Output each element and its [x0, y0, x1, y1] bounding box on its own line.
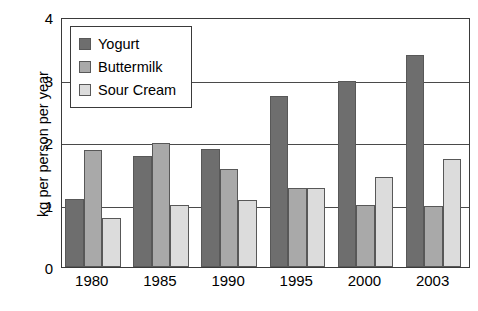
x-tick-label-1980: 1980: [57, 272, 127, 289]
bar-buttermilk-1990: [220, 169, 239, 267]
bar-buttermilk-2000: [356, 205, 375, 267]
x-tick-label-2000: 2000: [329, 272, 399, 289]
legend-item-sour-cream: Sour Cream: [79, 78, 183, 101]
legend-label: Sour Cream: [98, 82, 176, 98]
y-tick-label: 2: [15, 135, 61, 152]
bar-sour-cream-1985: [170, 205, 189, 267]
x-tick-label-1985: 1985: [125, 272, 195, 289]
bar-yogurt-1995: [270, 96, 289, 267]
legend-swatch-icon: [79, 38, 91, 50]
legend-label: Yogurt: [98, 36, 139, 52]
y-tick-label: 3: [15, 72, 61, 89]
bar-sour-cream-2000: [375, 177, 394, 267]
bar-chart: kg per person per year 01234 19801985199…: [0, 0, 478, 311]
y-tick-label: 1: [15, 197, 61, 214]
bar-sour-cream-1990: [238, 200, 257, 267]
bar-buttermilk-2003: [424, 206, 443, 267]
bar-buttermilk-1985: [152, 143, 171, 267]
legend-item-buttermilk: Buttermilk: [79, 55, 183, 78]
bar-yogurt-2000: [338, 81, 357, 267]
bar-yogurt-2003: [406, 55, 425, 267]
x-tick-label-1995: 1995: [261, 272, 331, 289]
x-tick-label-1990: 1990: [193, 272, 263, 289]
bar-sour-cream-1995: [307, 188, 326, 267]
bar-buttermilk-1995: [288, 188, 307, 267]
legend-item-yogurt: Yogurt: [79, 32, 183, 55]
legend-label: Buttermilk: [98, 59, 162, 75]
bar-sour-cream-2003: [443, 159, 462, 267]
bar-buttermilk-1980: [84, 150, 103, 267]
legend-swatch-icon: [79, 84, 91, 96]
y-tick-label: 4: [15, 10, 61, 27]
bar-sour-cream-1980: [102, 218, 121, 267]
bar-yogurt-1985: [133, 156, 152, 267]
legend-swatch-icon: [79, 61, 91, 73]
bar-yogurt-1990: [201, 149, 220, 267]
bar-yogurt-1980: [65, 199, 84, 267]
y-tick-label: 0: [15, 260, 61, 277]
x-tick-label-2003: 2003: [398, 272, 468, 289]
legend: YogurtButtermilkSour Cream: [70, 26, 192, 108]
